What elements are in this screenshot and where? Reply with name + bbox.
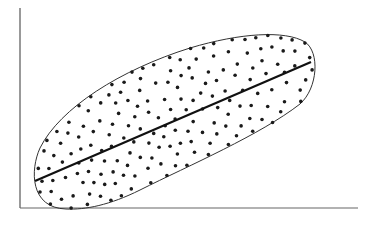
data-point [150, 156, 154, 160]
data-point [185, 163, 189, 167]
data-point [146, 99, 150, 103]
data-point [283, 100, 287, 104]
data-point [174, 164, 178, 168]
data-point [87, 109, 91, 113]
data-point [67, 121, 71, 125]
data-point [99, 173, 103, 177]
data-point [260, 59, 264, 63]
data-point [303, 41, 307, 45]
data-point [194, 57, 198, 61]
data-point [69, 152, 73, 156]
data-point [202, 46, 206, 50]
data-point [128, 151, 132, 155]
data-point [114, 182, 118, 186]
data-point [190, 76, 194, 80]
data-point [308, 56, 312, 60]
data-point [251, 129, 255, 133]
data-point [136, 105, 140, 109]
data-point [243, 38, 247, 42]
data-point [179, 141, 183, 145]
data-point [110, 83, 114, 87]
data-point [139, 77, 143, 81]
data-point [199, 91, 203, 95]
data-point [211, 94, 215, 98]
data-point [176, 86, 180, 90]
data-point [293, 49, 297, 53]
data-point [281, 49, 285, 53]
data-point [226, 112, 230, 116]
data-point [216, 106, 220, 110]
data-point [114, 101, 118, 105]
data-point [89, 143, 93, 147]
data-point [82, 124, 86, 128]
data-point [230, 38, 234, 42]
data-point [179, 74, 183, 78]
data-point [256, 92, 260, 96]
data-point [122, 136, 126, 140]
data-point [45, 139, 49, 143]
data-point [77, 104, 81, 108]
data-point [42, 149, 46, 153]
data-point [224, 124, 228, 128]
data-point [120, 194, 124, 198]
data-point [71, 194, 75, 198]
data-point [154, 81, 158, 85]
data-point [186, 129, 190, 133]
data-point [126, 99, 130, 103]
data-point [176, 152, 180, 156]
data-point [279, 110, 283, 114]
data-point [299, 100, 303, 104]
data-point [147, 141, 151, 145]
data-point [233, 73, 237, 77]
data-point [248, 117, 252, 121]
data-point [239, 124, 243, 128]
data-point [251, 66, 255, 70]
data-point [276, 62, 280, 66]
data-point [55, 130, 59, 134]
data-point [147, 111, 151, 115]
data-point [227, 50, 231, 54]
data-point [64, 176, 68, 180]
data-point [111, 122, 115, 126]
data-point [107, 93, 111, 97]
data-point [107, 133, 111, 137]
data-point [122, 80, 126, 84]
data-point [61, 160, 65, 164]
data-point [259, 47, 263, 51]
data-point [81, 181, 85, 185]
data-point [304, 78, 308, 82]
data-point [51, 179, 55, 183]
data-point [59, 142, 63, 146]
data-point [162, 135, 166, 139]
data-point [204, 82, 208, 86]
data-point [117, 112, 121, 116]
data-point [132, 140, 136, 144]
data-point [146, 167, 150, 171]
data-point [159, 162, 163, 166]
data-point [260, 118, 264, 122]
data-point [126, 164, 130, 168]
data-point [127, 124, 131, 128]
data-point [248, 78, 252, 82]
data-point [201, 131, 205, 135]
data-point [238, 104, 242, 108]
data-point [246, 51, 250, 55]
data-point [228, 99, 232, 103]
data-point [266, 34, 270, 38]
data-point [99, 195, 103, 199]
data-point [149, 181, 153, 185]
data-point [215, 79, 219, 83]
data-point [119, 90, 123, 94]
data-point [130, 187, 134, 191]
data-point [212, 54, 216, 58]
data-point [191, 99, 195, 103]
data-point [270, 45, 274, 49]
data-point [109, 199, 113, 203]
data-point [38, 190, 42, 194]
data-point [152, 63, 156, 67]
data-point [207, 153, 211, 157]
data-point [103, 183, 107, 187]
data-point [249, 104, 253, 108]
data-point [285, 81, 289, 85]
data-point [76, 172, 80, 176]
